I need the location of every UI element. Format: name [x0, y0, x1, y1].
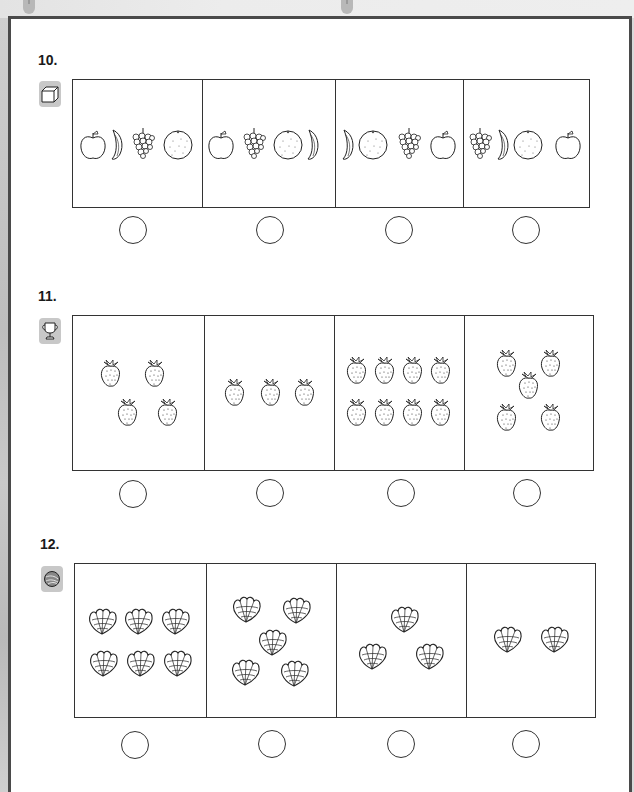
option-cell	[75, 564, 207, 717]
seashell-icon	[414, 643, 445, 670]
option-cell	[203, 80, 336, 207]
fruit-sequence	[341, 128, 463, 162]
seashell-icon	[231, 596, 262, 623]
option-cell	[335, 316, 465, 470]
answer-option-q12-1[interactable]	[121, 731, 149, 759]
seashell-icon	[123, 608, 154, 635]
question-number: 10.	[38, 52, 57, 68]
answer-option-q12-2[interactable]	[258, 730, 286, 758]
strawberry-icon	[99, 360, 123, 388]
strawberry-icon	[429, 399, 453, 427]
strawberry-icon	[517, 372, 541, 400]
answer-option-q11-3[interactable]	[387, 479, 415, 507]
answer-option-q11-1[interactable]	[119, 480, 147, 508]
answer-option-q10-2[interactable]	[256, 216, 284, 244]
option-cell	[465, 316, 594, 470]
answer-grid-q10	[72, 79, 590, 208]
strawberry-icon	[539, 350, 563, 378]
strawberry-icon	[345, 357, 369, 385]
strawberry-icon	[116, 399, 140, 427]
answer-option-q11-4[interactable]	[513, 479, 541, 507]
nest-icon	[41, 566, 63, 592]
binder-pin	[23, 0, 35, 14]
strawberry-icon	[293, 379, 317, 407]
fruit-sequence	[207, 128, 333, 162]
seashell-icon	[257, 629, 288, 656]
option-cell	[467, 564, 596, 717]
answer-option-q12-3[interactable]	[387, 730, 415, 758]
option-cell	[336, 80, 464, 207]
seashell-icon	[87, 608, 118, 635]
answer-option-q10-4[interactable]	[512, 216, 540, 244]
answer-option-q10-1[interactable]	[119, 216, 147, 244]
answer-grid-q11	[72, 315, 594, 471]
answer-grid-q12	[74, 563, 596, 718]
fruit-sequence	[468, 128, 586, 162]
seashell-icon	[160, 608, 191, 635]
seashell-icon	[162, 650, 193, 677]
question-number: 12.	[40, 536, 59, 552]
seashell-icon	[88, 650, 119, 677]
trophy-icon	[39, 318, 61, 344]
seashell-icon	[125, 650, 156, 677]
answer-option-q10-3[interactable]	[385, 216, 413, 244]
binder-pin	[341, 0, 353, 14]
seashell-icon	[230, 659, 261, 686]
strawberry-icon	[143, 360, 167, 388]
answer-option-q11-2[interactable]	[256, 479, 284, 507]
option-cell	[73, 316, 205, 470]
strawberry-icon	[345, 399, 369, 427]
strawberry-icon	[539, 404, 563, 432]
seashell-icon	[492, 626, 523, 653]
seashell-icon	[357, 643, 388, 670]
strawberry-icon	[259, 379, 283, 407]
strawberry-icon	[223, 379, 247, 407]
fruit-sequence	[79, 128, 199, 162]
option-cell	[205, 316, 336, 470]
strawberry-icon	[429, 357, 453, 385]
strawberry-icon	[495, 404, 519, 432]
seashell-icon	[389, 606, 420, 633]
seashell-icon	[281, 597, 312, 624]
answer-option-q12-4[interactable]	[512, 730, 540, 758]
strawberry-icon	[373, 399, 397, 427]
strawberry-icon	[401, 399, 425, 427]
strawberry-icon	[401, 357, 425, 385]
strawberry-icon	[373, 357, 397, 385]
strawberry-icon	[495, 350, 519, 378]
option-cell	[464, 80, 588, 207]
seashell-icon	[539, 626, 570, 653]
strawberry-icon	[156, 399, 180, 427]
option-cell	[73, 80, 203, 207]
question-number: 11.	[38, 288, 57, 304]
option-cell	[207, 564, 338, 717]
seashell-icon	[279, 660, 310, 687]
cube-icon	[39, 81, 61, 107]
option-cell	[337, 564, 467, 717]
